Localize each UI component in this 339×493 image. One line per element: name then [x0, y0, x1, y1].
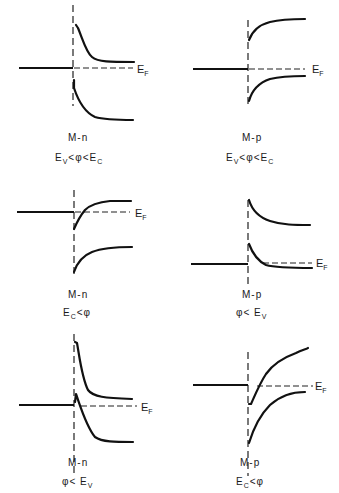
panel-mp-ev-phi-ec: EF M-p EV<φ<EC: [193, 19, 324, 165]
valence-band: [74, 247, 132, 272]
conduction-band: [76, 25, 134, 62]
condition-label: φ< EV: [236, 307, 267, 320]
valence-band: [249, 392, 305, 443]
condition-label: EC<φ: [63, 307, 91, 320]
conduction-band: [249, 200, 310, 225]
band-diagram-figure: EF M-n EV<φ<EC EF M-p EV<φ<EC EF M-n EC<…: [0, 0, 339, 493]
conduction-band: [249, 348, 308, 404]
panel-mn-phi-ev: EF M-n φ< EV: [19, 334, 153, 489]
conduction-band: [75, 342, 132, 399]
junction-label: M-n: [68, 132, 88, 143]
condition-label: EV<φ<EC: [226, 152, 274, 165]
condition-label: EC<φ: [236, 476, 264, 489]
junction-label: M-p: [242, 289, 262, 300]
valence-band: [249, 244, 312, 268]
junction-label: M-p: [240, 457, 260, 468]
fermi-label: EF: [137, 63, 149, 77]
valence-band: [75, 394, 133, 442]
junction-label: M-p: [242, 132, 262, 143]
fermi-label: EF: [135, 207, 147, 221]
conduction-band: [74, 201, 131, 229]
junction-label: M-n: [68, 457, 88, 468]
fermi-label: EF: [312, 63, 324, 77]
conduction-band: [249, 19, 305, 40]
fermi-label: EF: [315, 380, 327, 394]
panel-mn-ec-phi: EF M-n EC<φ: [17, 190, 147, 320]
panel-mp-phi-ev: EF M-p φ< EV: [191, 200, 328, 320]
fermi-label: EF: [316, 257, 328, 271]
condition-label: EV<φ<EC: [55, 152, 103, 165]
valence-band: [74, 80, 133, 120]
fermi-label: EF: [141, 401, 153, 415]
panel-mp-ec-phi: EF M-p EC<φ: [193, 348, 327, 489]
valence-band: [249, 76, 305, 101]
panel-mn-ev-phi-ec: EF M-n EV<φ<EC: [19, 5, 149, 165]
junction-label: M-n: [68, 289, 88, 300]
condition-label: φ< EV: [62, 476, 93, 489]
